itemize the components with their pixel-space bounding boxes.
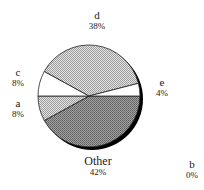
label-a-pct: 8% [4, 109, 32, 120]
label-e-name: e [148, 77, 176, 88]
label-c-name: c [4, 67, 32, 78]
label-other-pct: 42% [78, 167, 118, 178]
label-c: c 8% [4, 67, 32, 89]
label-a-name: a [4, 98, 32, 109]
label-b: b 0% [180, 159, 204, 181]
label-d-name: d [82, 10, 112, 21]
pie-chart: d 38% c 8% a 8% e 4% Other 42% b 0% [0, 0, 204, 190]
label-other: Other 42% [78, 156, 118, 178]
label-e-pct: 4% [148, 88, 176, 99]
label-d-pct: 38% [82, 21, 112, 32]
label-a: a 8% [4, 98, 32, 120]
label-c-pct: 8% [4, 78, 32, 89]
label-b-name: b [180, 159, 204, 170]
label-d: d 38% [82, 10, 112, 32]
label-other-name: Other [78, 156, 118, 167]
label-e: e 4% [148, 77, 176, 99]
label-b-pct: 0% [180, 170, 204, 181]
